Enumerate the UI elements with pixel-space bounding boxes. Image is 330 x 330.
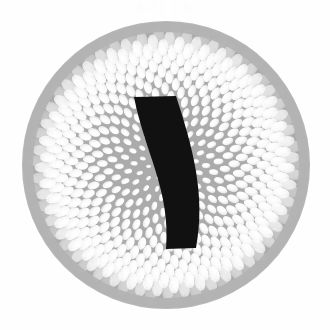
phyllotaxis-artwork xyxy=(0,0,330,330)
artwork-canvas: KPT ES xyxy=(0,0,330,330)
